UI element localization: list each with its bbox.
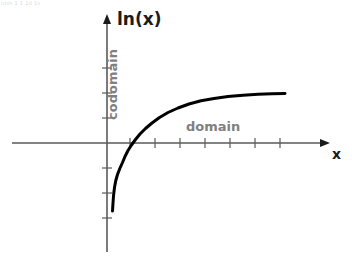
ln-curve [113,93,286,211]
codomain-annotation-label: codomain [106,49,119,120]
domain-annotation-label: domain [186,120,240,133]
x-axis-label: x [332,147,341,161]
y-axis-arrowhead [103,14,111,24]
figure-canvas: ldsh 1 1 1d 1s [0,0,352,260]
x-axis-arrowhead [320,139,330,147]
ln-graph-svg [0,0,352,260]
y-axis-label: ln(x) [117,11,161,28]
